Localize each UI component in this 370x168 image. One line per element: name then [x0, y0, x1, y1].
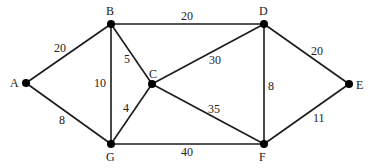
node-A — [22, 79, 30, 87]
edge-weight-BC: 5 — [124, 52, 130, 66]
node-E — [345, 80, 353, 88]
edge-weight-DF: 8 — [268, 79, 274, 93]
edge-weight-CF: 35 — [208, 102, 220, 116]
node-C — [148, 80, 156, 88]
node-F — [260, 140, 268, 148]
weighted-graph: 20810542030354082011 ABCDEFG — [0, 0, 370, 168]
edge-CG — [111, 84, 152, 144]
edge-weight-CG: 4 — [123, 101, 129, 115]
edge-weight-AB: 20 — [54, 41, 66, 55]
node-label-F: F — [259, 150, 266, 164]
edge-BC — [111, 24, 152, 84]
edge-weight-GF: 40 — [181, 145, 193, 159]
edge-weight-FE: 11 — [313, 111, 325, 125]
node-label-B: B — [106, 4, 114, 18]
edge-weight-DE: 20 — [311, 44, 323, 58]
edge-weight-CD: 30 — [209, 53, 221, 67]
edge-weight-AG: 8 — [59, 113, 65, 127]
node-D — [260, 20, 268, 28]
node-label-A: A — [10, 76, 19, 90]
node-label-E: E — [356, 78, 363, 92]
nodes: ABCDEFG — [10, 4, 363, 164]
edges: 20810542030354082011 — [26, 9, 349, 159]
edge-weight-BD: 20 — [181, 9, 193, 23]
node-label-G: G — [106, 150, 115, 164]
node-G — [107, 140, 115, 148]
node-label-D: D — [259, 4, 268, 18]
edge-DE — [264, 24, 349, 84]
edge-weight-BG: 10 — [94, 76, 106, 90]
edge-CD — [152, 24, 264, 84]
edge-FE — [264, 84, 349, 144]
node-label-C: C — [149, 67, 157, 81]
edge-AG — [26, 83, 111, 144]
edge-AB — [26, 24, 111, 83]
node-B — [107, 20, 115, 28]
